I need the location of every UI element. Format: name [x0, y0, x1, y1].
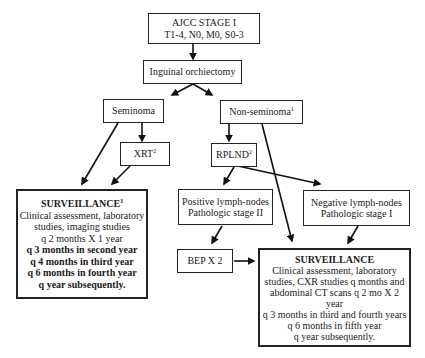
negative-line2: Pathologic stage I — [321, 208, 393, 220]
surveillance-seminoma-title: SURVEILLANCE3 — [41, 198, 123, 210]
surveillance-seminoma-box: SURVEILLANCE3 Clinical assessment, labor… — [16, 189, 148, 299]
surveillance-nonseminoma-line: q year subsequently. — [294, 331, 375, 342]
nonseminoma-footnote: 1 — [291, 106, 294, 112]
surveillance-seminoma-bold-line: q year subsequently. — [39, 279, 126, 291]
arrow-positive-to-bep — [212, 226, 222, 243]
rplnd-box: RPLND2 — [211, 143, 257, 167]
arrow-rplnd-to-negative — [238, 166, 320, 184]
surveillance-nonseminoma-line: q 3 months in third and fourth years — [263, 309, 407, 320]
bep-label: BEP X 2 — [187, 255, 222, 267]
nonseminoma-label: Non-seminoma1 — [229, 106, 294, 118]
xrt-footnote: 2 — [153, 148, 156, 154]
rplnd-footnote: 2 — [249, 149, 252, 155]
surveillance-seminoma-bold-line: q 6 months in fourth year — [27, 267, 136, 279]
negative-line1: Negative lymph-nodes — [311, 197, 402, 209]
surveillance-nonseminoma-box: SURVEILLANCE Clinical assessment, labora… — [258, 248, 411, 347]
positive-box: Positive lymph-nodes Pathologic stage II — [178, 189, 273, 225]
surveillance-seminoma-bold-line: q 3 months in second year — [27, 244, 138, 256]
xrt-box: XRT2 — [120, 142, 170, 166]
rplnd-label: RPLND2 — [216, 149, 252, 161]
stage-line1: AJCC STAGE I — [172, 17, 236, 29]
seminoma-box: Seminoma — [103, 99, 164, 123]
surveillance-nonseminoma-line: abdominal CT scans q 2 mo X 2 — [270, 287, 399, 298]
surveillance-nonseminoma-line: studies, CXR studies q months and — [264, 276, 404, 287]
nonseminoma-box: Non-seminoma1 — [220, 100, 303, 124]
orchiectomy-label: Inguinal orchiectomy — [150, 66, 236, 78]
surveillance-nonseminoma-title: SURVEILLANCE — [295, 254, 374, 265]
surveillance-seminoma-footnote: 3 — [120, 198, 123, 204]
arrow-rplnd-to-positive — [224, 167, 234, 184]
orchiectomy-box: Inguinal orchiectomy — [143, 60, 242, 84]
surveillance-seminoma-bold-line: q 4 months in third year — [30, 256, 134, 268]
arrow-seminoma-to-surveillance — [82, 123, 118, 184]
arrow-negative-to-surveillance — [348, 226, 358, 243]
arrow-xrt-to-surveillance — [112, 166, 130, 184]
surveillance-nonseminoma-line: year — [326, 298, 343, 309]
xrt-text: XRT — [134, 148, 153, 159]
stage-box: AJCC STAGE I T1-4, N0, M0, S0-3 — [148, 13, 260, 44]
surveillance-seminoma-line: Clinical assessment, laboratory — [20, 210, 145, 222]
surveillance-seminoma-title-text: SURVEILLANCE — [41, 198, 120, 209]
stage-line2: T1-4, N0, M0, S0-3 — [164, 29, 243, 41]
arrow-orchiectomy-to-seminoma — [172, 84, 193, 95]
surveillance-seminoma-line: q 2 months X 1 year — [41, 233, 122, 245]
positive-line1: Positive lymph-nodes — [182, 196, 269, 208]
xrt-label: XRT2 — [134, 148, 156, 160]
negative-box: Negative lymph-nodes Pathologic stage I — [303, 190, 410, 226]
arrow-orchiectomy-to-nonseminoma — [193, 84, 212, 95]
bep-box: BEP X 2 — [177, 249, 233, 273]
positive-line2: Pathologic stage II — [188, 207, 263, 219]
surveillance-nonseminoma-line: q 6 months in fifth year — [287, 320, 381, 331]
seminoma-label: Seminoma — [112, 105, 155, 117]
surveillance-seminoma-line: studies, imaging studies — [34, 221, 130, 233]
surveillance-nonseminoma-line: Clinical assessment, laboratory — [272, 265, 397, 276]
nonseminoma-text: Non-seminoma — [229, 106, 291, 117]
rplnd-text: RPLND — [216, 149, 249, 160]
